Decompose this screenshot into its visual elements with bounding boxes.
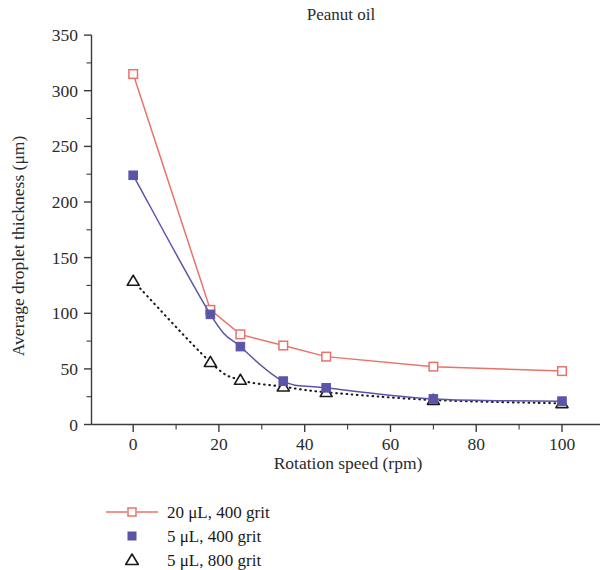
chart-title: Peanut oil <box>307 5 376 24</box>
series-2 <box>127 275 568 407</box>
data-point <box>129 70 138 79</box>
legend: 20 μL, 400 grit 5 μL, 400 grit 5 μL, 800… <box>106 503 270 570</box>
y-tick-label: 300 <box>52 81 79 101</box>
x-tick-label: 100 <box>549 434 576 454</box>
legend-item-0[interactable]: 20 μL, 400 grit <box>106 503 270 522</box>
legend-key-open-triangle-icon <box>126 554 139 565</box>
chart-svg: Peanut oil Average droplet thickness (μm… <box>0 0 607 570</box>
y-axis-ticks <box>84 35 92 424</box>
data-point <box>429 362 438 371</box>
data-point <box>236 330 245 339</box>
y-tick-label: 250 <box>52 136 79 156</box>
data-point <box>322 352 331 361</box>
x-axis-ticks <box>133 425 562 433</box>
x-tick-label: 0 <box>129 434 138 454</box>
data-point <box>127 275 139 285</box>
axes <box>92 35 601 425</box>
data-point <box>204 356 216 366</box>
data-point <box>234 374 246 384</box>
data-point <box>558 367 567 376</box>
data-point <box>279 341 288 350</box>
y-tick-label: 150 <box>52 248 79 268</box>
x-tick-label: 60 <box>382 434 400 454</box>
plot-data-layer <box>127 70 568 408</box>
legend-key-open-square-icon <box>106 508 158 516</box>
y-tick-label: 0 <box>69 415 78 435</box>
data-point <box>236 342 245 351</box>
legend-item-2[interactable]: 5 μL, 800 grit <box>126 551 262 570</box>
legend-item-1[interactable]: 5 μL, 400 grit <box>128 527 261 546</box>
y-tick-label: 200 <box>52 192 79 212</box>
x-tick-label: 20 <box>210 434 228 454</box>
series-0 <box>129 70 566 376</box>
y-tick-label: 350 <box>52 25 79 45</box>
x-tick-label: 40 <box>296 434 314 454</box>
x-axis-label: Rotation speed (rpm) <box>274 453 423 473</box>
y-tick-label: 50 <box>61 359 79 379</box>
series-1 <box>129 171 566 405</box>
x-axis-tick-labels: 0 20 40 60 80 100 <box>129 434 576 454</box>
data-point <box>322 383 331 392</box>
legend-key-filled-square-icon <box>128 532 136 540</box>
data-point <box>558 397 567 406</box>
data-point <box>279 377 288 386</box>
chart-figure: Peanut oil Average droplet thickness (μm… <box>0 0 607 570</box>
data-point <box>129 171 138 180</box>
y-axis-tick-labels: 350 300 250 200 150 100 50 0 <box>52 25 79 435</box>
x-tick-label: 80 <box>467 434 485 454</box>
legend-item-label: 5 μL, 800 grit <box>167 551 261 570</box>
legend-item-label: 20 μL, 400 grit <box>167 503 270 522</box>
data-point <box>206 310 215 319</box>
y-axis-label: Average droplet thickness (μm) <box>8 136 28 357</box>
y-tick-label: 100 <box>52 303 79 323</box>
data-point <box>429 395 438 404</box>
legend-item-label: 5 μL, 400 grit <box>167 527 261 546</box>
